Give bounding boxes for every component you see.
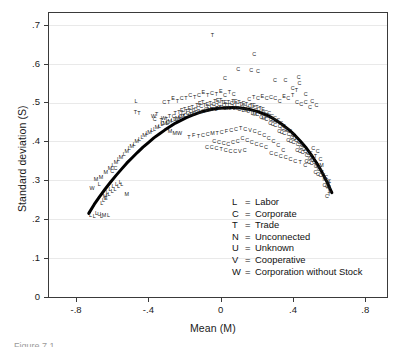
data-point: C xyxy=(267,136,271,141)
data-point: C xyxy=(231,140,235,145)
y-tick-label: .3 xyxy=(14,174,40,185)
data-point: C xyxy=(224,148,228,153)
data-point: C xyxy=(162,101,166,106)
data-point: E xyxy=(260,94,264,99)
data-point: T xyxy=(295,88,298,93)
legend-equals: = xyxy=(245,266,255,278)
data-point: V xyxy=(238,149,242,154)
data-point: W xyxy=(89,186,94,191)
data-point: E xyxy=(171,97,175,102)
data-point: C xyxy=(283,78,287,83)
y-tick-label: .1 xyxy=(14,252,40,263)
data-point: F xyxy=(225,129,228,134)
legend-equals: = xyxy=(245,219,255,231)
legend-entry: U=Unknown xyxy=(232,242,362,254)
data-point: U xyxy=(246,109,250,114)
data-point: C xyxy=(316,150,320,155)
legend-symbol: L xyxy=(232,196,245,208)
x-tick-label: .8 xyxy=(350,304,380,315)
data-point: L xyxy=(120,183,123,188)
x-tick-label: 0 xyxy=(206,304,236,315)
data-point: C xyxy=(269,151,273,156)
data-point: C xyxy=(298,81,302,86)
data-point: C xyxy=(229,149,233,154)
data-point: U xyxy=(210,107,214,112)
x-tick-mark xyxy=(221,298,222,302)
data-point: C xyxy=(273,78,277,83)
data-point: C xyxy=(210,91,214,96)
data-point: C xyxy=(279,154,283,159)
legend-entry: V=Cooperative xyxy=(232,254,362,266)
data-point: C xyxy=(286,97,290,102)
x-tick-label: -.4 xyxy=(133,304,163,315)
data-point: T xyxy=(219,147,222,152)
data-point: C xyxy=(243,127,247,132)
data-point: C xyxy=(278,99,282,104)
legend-label: Corporate xyxy=(255,208,297,219)
data-point: C xyxy=(308,105,312,110)
data-point: C xyxy=(304,101,308,106)
data-point: C xyxy=(233,150,237,155)
data-point: C xyxy=(240,136,244,141)
data-point: C xyxy=(214,146,218,151)
legend-entry: W=Corporation without Stock xyxy=(232,266,362,278)
data-point: V xyxy=(248,128,252,133)
data-point: T xyxy=(252,95,255,100)
data-point: C xyxy=(206,132,210,137)
legend-symbol: N xyxy=(232,231,245,243)
data-point: C xyxy=(223,76,227,81)
data-point: C xyxy=(309,151,313,156)
data-point: T xyxy=(228,90,231,95)
data-point: C xyxy=(253,129,257,134)
data-point: C xyxy=(304,92,308,97)
data-point: C xyxy=(210,146,214,151)
legend-label: Labor xyxy=(255,196,279,207)
data-point: C xyxy=(201,133,205,138)
data-point: C xyxy=(259,143,263,148)
legend-symbol: V xyxy=(232,254,245,266)
x-tick-mark xyxy=(148,298,149,302)
data-point: C xyxy=(243,148,247,153)
data-point: C xyxy=(297,76,301,81)
data-point: M xyxy=(102,213,107,218)
data-point: C xyxy=(256,97,260,102)
legend-equals: = xyxy=(245,231,255,243)
data-point: T xyxy=(215,132,218,137)
data-point: M xyxy=(124,192,129,197)
data-point: L xyxy=(98,182,101,187)
data-point: E xyxy=(202,90,206,95)
data-point: C xyxy=(257,131,261,136)
legend-equals: = xyxy=(245,196,255,208)
data-point: T xyxy=(155,112,158,117)
x-tick-label: .4 xyxy=(278,304,308,315)
data-point: C xyxy=(252,52,256,57)
data-point: T xyxy=(206,94,209,99)
legend-symbol: C xyxy=(232,208,245,220)
data-point: T xyxy=(197,134,200,139)
legend-symbol: U xyxy=(232,242,245,254)
plot-area: LLLULMLLLMELLLLLLLLLLMMWMLMMLMLMCCLMLMLM… xyxy=(48,12,388,298)
y-tick-label: .6 xyxy=(14,58,40,69)
data-point: F xyxy=(192,133,195,138)
data-point: M xyxy=(104,171,109,176)
data-point: T xyxy=(184,97,187,102)
x-tick-mark xyxy=(293,298,294,302)
data-point: C xyxy=(197,93,201,98)
data-point: C xyxy=(303,164,307,169)
x-tick-mark xyxy=(76,298,77,302)
data-point: C xyxy=(236,67,240,72)
legend-entry: N=Unconnected xyxy=(232,231,362,243)
data-point: C xyxy=(245,139,249,144)
figure-root: Standard deviation (S) 0.1.2.3.4.5.6.7 L… xyxy=(0,0,408,350)
legend-label: Unknown xyxy=(255,242,294,253)
data-point: L xyxy=(107,213,110,218)
x-tick-mark xyxy=(365,298,366,302)
data-point: C xyxy=(247,97,251,102)
legend: L=LaborC=CorporateT=TradeN=UnconnectedU=… xyxy=(232,196,362,277)
data-point: T xyxy=(176,99,179,104)
data-point: C xyxy=(276,143,280,148)
data-point: C xyxy=(310,99,314,104)
data-point: C xyxy=(223,93,227,98)
data-point: C xyxy=(249,69,253,74)
data-point: L xyxy=(89,213,92,218)
